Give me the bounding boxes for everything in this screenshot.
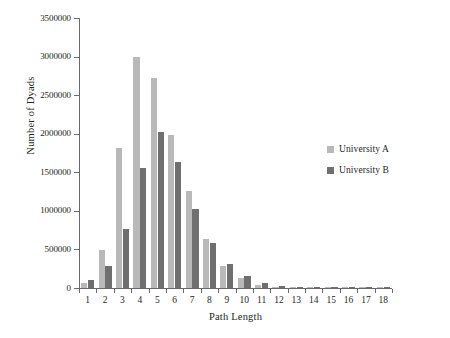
bar-university-a-5 bbox=[151, 78, 157, 288]
x-axis-tick bbox=[305, 289, 306, 293]
bar-university-a-18 bbox=[377, 287, 383, 288]
bar-university-b-5 bbox=[158, 132, 164, 288]
legend-swatch-university-a bbox=[327, 146, 334, 153]
x-axis-tick bbox=[288, 289, 289, 293]
x-axis-tick bbox=[218, 289, 219, 293]
x-axis-tick bbox=[270, 289, 271, 293]
x-axis-tick bbox=[96, 289, 97, 293]
bar-university-b-7 bbox=[192, 209, 198, 288]
legend-item: University A bbox=[327, 141, 389, 157]
bar-university-b-2 bbox=[105, 266, 111, 288]
y-axis-tick-label: 1000000 bbox=[1, 206, 71, 215]
y-axis-tick-label: 2500000 bbox=[1, 91, 71, 100]
bar-university-b-11 bbox=[262, 283, 268, 288]
bar-university-a-13 bbox=[290, 287, 296, 288]
bar-university-a-11 bbox=[255, 285, 261, 288]
x-axis-tick bbox=[79, 289, 80, 293]
bar-university-a-12 bbox=[272, 287, 278, 288]
x-axis-title: Path Length bbox=[79, 311, 392, 322]
bar-university-b-1 bbox=[88, 280, 94, 288]
bar-university-b-6 bbox=[175, 162, 181, 289]
legend-label-university-a: University A bbox=[339, 141, 389, 157]
bar-university-a-16 bbox=[342, 287, 348, 288]
legend-swatch-university-b bbox=[327, 167, 334, 174]
bar-university-b-9 bbox=[227, 264, 233, 288]
x-axis-tick bbox=[114, 289, 115, 293]
x-axis-tick bbox=[183, 289, 184, 293]
bar-chart-figure: Number of Dyads 050000010000001500000200… bbox=[0, 0, 450, 338]
x-axis-tick bbox=[236, 289, 237, 293]
bar-university-a-6 bbox=[168, 135, 174, 288]
bar-university-a-2 bbox=[99, 250, 105, 288]
x-axis-tick-label: 18 bbox=[371, 295, 395, 306]
legend-label-university-b: University B bbox=[339, 162, 389, 178]
y-axis-tick-label: 1500000 bbox=[1, 168, 71, 177]
x-axis-tick bbox=[322, 289, 323, 293]
bar-university-a-8 bbox=[203, 239, 209, 288]
bar-university-b-8 bbox=[210, 243, 216, 288]
bar-university-b-17 bbox=[366, 287, 372, 288]
legend-item: University B bbox=[327, 162, 389, 178]
bar-university-a-1 bbox=[81, 283, 87, 288]
bar-university-a-15 bbox=[325, 287, 331, 288]
bar-university-b-16 bbox=[349, 287, 355, 288]
bar-university-a-17 bbox=[359, 287, 365, 288]
y-axis-tick-label: 0 bbox=[1, 284, 71, 293]
y-axis-tick-label: 3000000 bbox=[1, 52, 71, 61]
x-axis-tick bbox=[166, 289, 167, 293]
x-axis-tick bbox=[392, 289, 393, 293]
x-axis-tick bbox=[340, 289, 341, 293]
bar-university-b-13 bbox=[297, 287, 303, 288]
chart-legend: University A University B bbox=[327, 141, 389, 183]
x-axis-tick bbox=[131, 289, 132, 293]
bar-university-a-7 bbox=[186, 191, 192, 288]
x-axis-tick bbox=[375, 289, 376, 293]
bar-university-a-14 bbox=[307, 287, 313, 288]
bar-university-b-10 bbox=[244, 276, 250, 288]
bar-university-b-18 bbox=[384, 287, 390, 288]
y-axis-tick-label: 500000 bbox=[1, 245, 71, 254]
bar-university-b-3 bbox=[123, 229, 129, 288]
bar-university-a-4 bbox=[133, 57, 139, 288]
y-axis-tick-label: 3500000 bbox=[1, 14, 71, 23]
x-axis-tick bbox=[201, 289, 202, 293]
bar-university-a-10 bbox=[238, 278, 244, 288]
bar-university-a-3 bbox=[116, 148, 122, 288]
x-axis-tick bbox=[357, 289, 358, 293]
bar-university-b-15 bbox=[331, 287, 337, 288]
bar-university-a-9 bbox=[220, 266, 226, 288]
bar-university-b-14 bbox=[314, 287, 320, 288]
y-axis-tick-label: 2000000 bbox=[1, 129, 71, 138]
bar-university-b-4 bbox=[140, 168, 146, 288]
y-axis-title: Number of Dyads bbox=[25, 16, 36, 216]
x-axis-tick bbox=[253, 289, 254, 293]
x-axis-tick bbox=[149, 289, 150, 293]
bar-university-b-12 bbox=[279, 286, 285, 288]
